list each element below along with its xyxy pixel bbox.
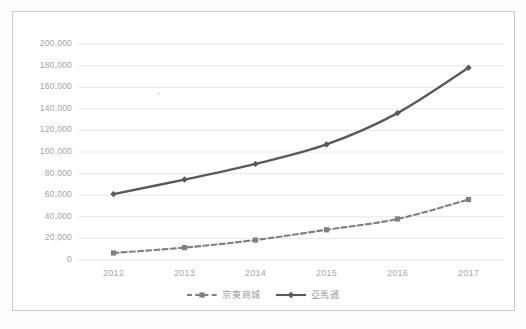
y-axis-tick-label: 0 <box>20 254 72 264</box>
y-axis-tick-label: 40,000 <box>20 211 72 221</box>
legend-label: 亞馬遜 <box>311 288 340 301</box>
y-axis-tick-label: 200,000 <box>20 38 72 48</box>
legend-swatch-solid-diamond <box>275 290 307 300</box>
legend-entry[interactable]: 亞馬遜 <box>275 288 340 301</box>
legend-swatch-dashed-square <box>186 290 218 300</box>
legend-entry[interactable]: 京東商城 <box>186 288 260 301</box>
y-axis-tick-label: 180,000 <box>20 60 72 70</box>
y-axis-tick-label: 80,000 <box>20 168 72 178</box>
y-axis-tick-label: 20,000 <box>20 232 72 242</box>
scan-artifact-speck <box>157 92 160 95</box>
x-axis-tick-label: 2013 <box>160 268 210 278</box>
x-axis-tick-label: 2014 <box>231 268 281 278</box>
chart-legend: 京東商城亞馬遜 <box>0 288 526 301</box>
chart-frame <box>12 11 515 311</box>
y-axis-tick-label: 160,000 <box>20 81 72 91</box>
x-axis-tick-label: 2017 <box>444 268 494 278</box>
y-axis-tick-label: 100,000 <box>20 146 72 156</box>
y-axis-tick-label: 120,000 <box>20 124 72 134</box>
y-axis-tick-label: 140,000 <box>20 103 72 113</box>
x-axis-tick-label: 2016 <box>373 268 423 278</box>
y-axis-tick-label: 60,000 <box>20 189 72 199</box>
chart-figure: 020,00040,00060,00080,000100,000120,0001… <box>0 0 526 329</box>
x-axis-tick-label: 2012 <box>89 268 139 278</box>
legend-label: 京東商城 <box>222 288 260 301</box>
x-axis-tick-label: 2015 <box>302 268 352 278</box>
